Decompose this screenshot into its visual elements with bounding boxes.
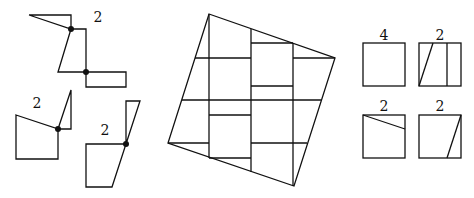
piece-top-rect: [86, 72, 126, 87]
square-cut: [363, 115, 405, 129]
right-squares: 4 2 2 2: [363, 27, 461, 158]
piece-bottom-right-quad: [86, 144, 126, 187]
diagram-canvas: 2 2 2 4 2 2: [0, 0, 474, 198]
piece-bottom-left-quad: [16, 115, 58, 159]
hinge-dot: [68, 26, 74, 32]
piece-top-triangle: [29, 15, 71, 29]
center-dissected-square: [168, 14, 335, 186]
square-label: 4: [380, 27, 389, 43]
piece-label: 2: [33, 95, 42, 111]
square-label: 2: [380, 98, 389, 114]
piece-bottom-right-sliver: [126, 101, 140, 144]
square-full: [363, 43, 405, 86]
hinge-dot: [123, 141, 129, 147]
square-label: 2: [436, 27, 445, 43]
piece-bottom-left-sliver: [58, 90, 71, 129]
square-cut: [447, 115, 461, 158]
piece-top-trapezoid: [58, 29, 86, 72]
square-split: [419, 43, 461, 86]
hinge-dot: [83, 69, 89, 75]
piece-label: 2: [94, 9, 103, 25]
square-cut: [419, 43, 433, 86]
square-diagonal-right: [419, 115, 461, 158]
square-label: 2: [436, 98, 445, 114]
left-hinged-pieces: 2 2 2: [16, 9, 140, 187]
piece-label: 2: [101, 122, 110, 138]
hinge-dot: [55, 126, 61, 132]
